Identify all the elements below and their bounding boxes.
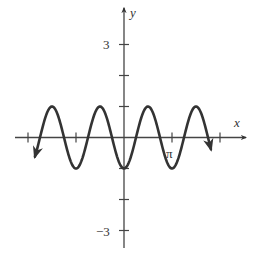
- plot-svg: x y π 3 −3: [0, 0, 255, 255]
- pi-tick-label: π: [166, 146, 173, 161]
- y-axis-label: y: [128, 5, 136, 20]
- x-axis-label: x: [233, 115, 240, 130]
- y-tick-label-neg3: −3: [96, 224, 110, 239]
- y-tick-label-3: 3: [103, 37, 110, 52]
- graph-canvas: x y π 3 −3: [0, 0, 255, 255]
- axes: [15, 8, 246, 248]
